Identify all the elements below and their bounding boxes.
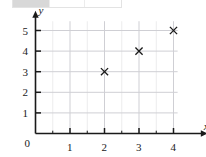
y-tick-label-5: 5 [23, 26, 29, 37]
x-tick-label-1: 1 [67, 142, 73, 153]
x-axis-label: x [204, 121, 206, 132]
x-tick-label-2: 2 [102, 142, 108, 153]
y-tick-label-3: 3 [23, 67, 29, 78]
axis-lines [32, 11, 206, 137]
origin-tick-label: 0 [25, 138, 31, 149]
y-tick-label-4: 4 [23, 46, 29, 57]
x-tick-label-3: 3 [136, 142, 142, 153]
y-tick-label-2: 2 [23, 87, 29, 98]
x-tick-label-4: 4 [171, 142, 177, 153]
y-tick-label-1: 1 [23, 108, 29, 119]
scatter-plot [0, 0, 206, 157]
y-axis-label: y [39, 5, 44, 16]
